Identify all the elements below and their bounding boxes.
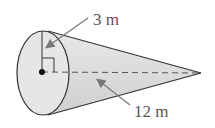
base-center-point [39, 69, 45, 75]
height-label: 12 m [134, 102, 168, 121]
radius-label: 3 m [93, 10, 119, 29]
cone-diagram: 3 m 12 m [0, 0, 215, 128]
